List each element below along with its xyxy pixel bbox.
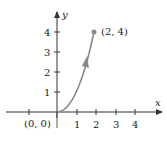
curve — [57, 32, 94, 112]
x-tick-label: 4 — [132, 119, 138, 130]
y-tick-label: 4 — [44, 27, 50, 38]
x-tick-label: 3 — [113, 119, 119, 130]
endpoint-dot — [92, 30, 97, 35]
parametric-curve-diagram: 1 2 3 4 1 2 3 4 x y (2, 4) (0, 0) — [0, 0, 167, 142]
endpoint-label: (2, 4) — [101, 26, 128, 37]
x-tick-label: 1 — [74, 119, 80, 130]
y-axis-label: y — [61, 9, 68, 20]
x-axis-label: x — [155, 97, 161, 108]
origin-label: (0, 0) — [24, 118, 51, 129]
y-tick-label: 1 — [44, 87, 50, 98]
x-tick-label: 2 — [93, 119, 99, 130]
y-tick-label: 3 — [44, 47, 50, 58]
y-tick-label: 2 — [44, 67, 50, 78]
